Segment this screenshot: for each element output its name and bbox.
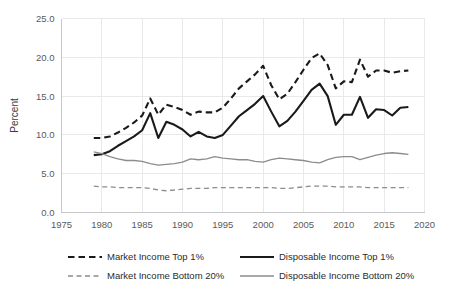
chart-legend: Market Income Top 1%Disposable Income To… [68,251,415,281]
series-line-3 [94,152,409,165]
x-tick-label: 2005 [293,219,314,230]
chart-figure: 0.05.010.015.020.025.0 19751980198519901… [0,0,450,292]
x-tick-labels: 1975198019851990199520002005201020152020 [51,219,435,230]
series-line-2 [94,186,409,191]
legend-label-1: Disposable Income Top 1% [279,251,394,262]
y-axis-title: Percent [9,98,20,133]
x-tick-label: 1985 [132,219,153,230]
y-tick-label: 10.0 [36,129,55,140]
y-tick-label: 0.0 [41,207,54,218]
series-line-1 [94,84,409,155]
legend-label-3: Disposable Income Bottom 20% [279,270,415,281]
y-tick-label: 25.0 [36,13,55,24]
x-tick-label: 2020 [414,219,435,230]
line-chart: 0.05.010.015.020.025.0 19751980198519901… [0,0,450,292]
y-tick-label: 15.0 [36,91,55,102]
data-series [94,53,409,190]
legend-label-2: Market Income Bottom 20% [107,270,225,281]
x-tick-label: 2010 [333,219,354,230]
y-tick-label: 20.0 [36,52,55,63]
x-tick-label: 1990 [172,219,193,230]
legend-label-0: Market Income Top 1% [107,251,205,262]
x-tick-label: 1995 [212,219,233,230]
x-tick-label: 1975 [51,219,72,230]
x-tick-label: 2015 [374,219,395,230]
y-tick-labels: 0.05.010.015.020.025.0 [36,13,55,218]
y-tick-label: 5.0 [41,168,54,179]
x-tick-label: 1980 [91,219,112,230]
x-tick-label: 2000 [253,219,274,230]
